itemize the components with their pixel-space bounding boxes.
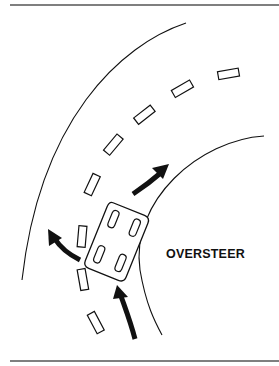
oversteer-diagram [0,0,279,366]
road-inner-edge [139,136,264,335]
arrow-rear-swing-icon [48,229,80,260]
oversteer-label: OVERSTEER [166,247,245,261]
arrow-approach-icon [113,285,135,339]
lane-dashes [77,68,239,334]
